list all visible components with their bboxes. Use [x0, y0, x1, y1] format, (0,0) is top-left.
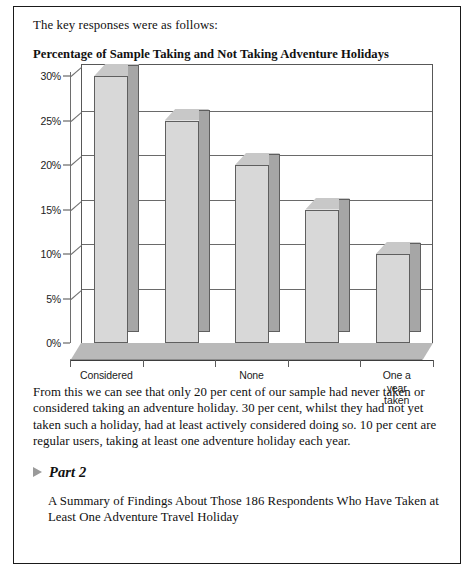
bar-side-face	[339, 199, 350, 333]
intro-paragraph: The key responses were as follows:	[33, 17, 445, 33]
bar-chart: 0%5%10%15%20%25%30% ConsideredNoneOne a …	[33, 72, 445, 372]
chart-title: Percentage of Sample Taking and Not Taki…	[33, 47, 445, 62]
y-axis-tick	[63, 343, 70, 344]
x-axis-tick	[288, 360, 289, 367]
y-axis-tick	[63, 76, 70, 77]
y-axis-tick-label: 25%	[41, 115, 61, 127]
bar	[165, 121, 199, 344]
y-axis-tick	[63, 209, 70, 210]
bar-front-face	[94, 76, 128, 343]
bar	[305, 210, 339, 344]
chart-floor	[70, 343, 433, 361]
bar-front-face	[305, 210, 339, 344]
x-axis-tick	[215, 360, 216, 367]
y-axis-tick	[63, 254, 70, 255]
bar-side-face	[410, 243, 421, 332]
y-axis-labels: 0%5%10%15%20%25%30%	[33, 72, 71, 342]
part-heading: Part 2	[33, 464, 445, 481]
bar-side-face	[199, 110, 210, 333]
x-axis-tick-label: One a year taken	[373, 369, 421, 407]
x-axis-tick	[360, 360, 361, 367]
bar-front-face	[376, 254, 410, 343]
triangle-right-icon	[33, 467, 42, 477]
part-title: Part 2	[49, 464, 86, 481]
bar-front-face	[165, 121, 199, 344]
y-axis-tick-label: 15%	[41, 204, 61, 216]
x-axis-tick	[143, 360, 144, 367]
y-axis-tick	[63, 165, 70, 166]
y-axis-tick-label: 0%	[46, 337, 61, 349]
bar	[235, 165, 269, 343]
bar	[376, 254, 410, 343]
y-axis-tick-label: 20%	[41, 159, 61, 171]
part-subtitle: A Summary of Findings About Those 186 Re…	[48, 493, 445, 526]
bar	[94, 76, 128, 343]
bar-side-face	[128, 65, 139, 332]
x-axis-tick-label: None	[239, 369, 264, 382]
y-axis-tick-label: 10%	[41, 248, 61, 260]
x-axis-tick	[70, 360, 71, 367]
bar-front-face	[235, 165, 269, 343]
bar-side-face	[269, 154, 280, 332]
x-axis-tick-label: Considered	[80, 369, 133, 382]
x-axis-tick	[433, 360, 434, 367]
y-axis-tick-label: 5%	[46, 293, 61, 305]
x-axis-line	[70, 360, 433, 361]
y-axis-tick-label: 30%	[41, 70, 61, 82]
y-axis-tick	[63, 120, 70, 121]
page-content: The key responses were as follows: Perce…	[33, 17, 445, 553]
document-page: The key responses were as follows: Perce…	[13, 6, 461, 564]
y-axis-tick	[63, 298, 70, 299]
